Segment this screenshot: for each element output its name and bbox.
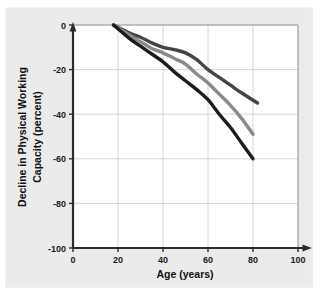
y-tick-label: -40: [53, 110, 66, 120]
figure-container: 020406080100 0-20-40-60-80-100 Age (year…: [0, 0, 324, 297]
plot-area-background: [73, 25, 298, 248]
y-tick-label: -20: [53, 65, 66, 75]
x-tick-label: 100: [290, 255, 305, 265]
x-tick-label: 60: [203, 255, 213, 265]
x-axis-arrow-head: [303, 245, 313, 252]
y-axis-title-line1: Decline in Physical Working: [16, 67, 28, 207]
x-tick-labels: 020406080100: [70, 255, 305, 265]
y-axis-title-line2: Capacity (percent): [31, 91, 43, 183]
x-tick-label: 40: [158, 255, 168, 265]
y-tick-label: 0: [61, 21, 66, 31]
line-chart: 020406080100 0-20-40-60-80-100 Age (year…: [0, 0, 324, 297]
y-tick-label: -100: [48, 244, 66, 254]
y-tick-label: -80: [53, 199, 66, 209]
x-tick-label: 20: [113, 255, 123, 265]
x-tick-label: 0: [70, 255, 75, 265]
y-tick-label: -60: [53, 154, 66, 164]
x-axis-title: Age (years): [156, 268, 213, 280]
x-tick-label: 80: [248, 255, 258, 265]
y-tick-labels: 0-20-40-60-80-100: [48, 21, 66, 254]
